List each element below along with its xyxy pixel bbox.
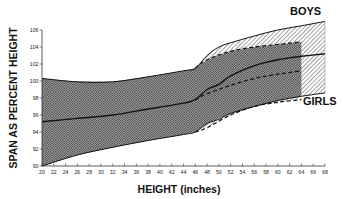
- y-tick-label: 104: [30, 44, 39, 50]
- x-tick-label: 54: [240, 169, 246, 175]
- x-tick-label: 22: [51, 169, 57, 175]
- x-tick-label: 60: [275, 169, 281, 175]
- y-tick-label: 90: [33, 163, 39, 169]
- x-tick-label: 32: [110, 169, 116, 175]
- y-tick-label: 92: [33, 146, 39, 152]
- x-tick-label: 66: [310, 169, 316, 175]
- x-tick-label: 64: [299, 169, 305, 175]
- y-tick-label: 94: [33, 129, 39, 135]
- y-tick-label: 100: [30, 78, 39, 84]
- y-tick-label: 96: [33, 112, 39, 118]
- x-tick-label: 58: [263, 169, 269, 175]
- x-tick-label: 36: [133, 169, 139, 175]
- bands: [42, 22, 325, 167]
- span-height-chart: 2022242628303234363840424446485052545658…: [0, 0, 343, 199]
- boys-label: BOYS: [290, 5, 321, 17]
- x-tick-label: 46: [192, 169, 198, 175]
- x-tick-label: 68: [322, 169, 328, 175]
- x-tick-label: 62: [287, 169, 293, 175]
- x-tick-label: 42: [169, 169, 175, 175]
- y-axis-title: SPAN AS PERCENT HEIGHT: [7, 27, 19, 169]
- x-axis-title: HEIGHT (inches): [138, 183, 221, 195]
- x-tick-label: 20: [39, 169, 45, 175]
- x-tick-label: 40: [157, 169, 163, 175]
- y-tick-label: 106: [30, 27, 39, 33]
- y-tick-label: 102: [30, 61, 39, 67]
- x-tick-label: 50: [216, 169, 222, 175]
- x-tick-label: 52: [228, 169, 234, 175]
- x-tick-label: 38: [145, 169, 151, 175]
- x-tick-label: 28: [86, 169, 92, 175]
- x-tick-label: 48: [204, 169, 210, 175]
- x-tick-label: 34: [122, 169, 128, 175]
- y-tick-label: 98: [33, 95, 39, 101]
- x-tick-label: 30: [98, 169, 104, 175]
- x-tick-label: 26: [74, 169, 80, 175]
- x-tick-label: 44: [181, 169, 187, 175]
- girls-label: GIRLS: [303, 95, 337, 107]
- x-tick-label: 24: [63, 169, 69, 175]
- x-tick-label: 56: [251, 169, 257, 175]
